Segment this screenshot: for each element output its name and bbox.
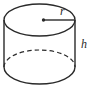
height-label: h <box>81 37 87 51</box>
cylinder-bottom-front-arc <box>4 67 75 84</box>
cylinder-figure: r h <box>0 0 91 91</box>
cylinder-bottom-back-arc <box>4 50 75 67</box>
radius-label: r <box>60 4 65 18</box>
cylinder-diagram: r h <box>0 0 91 91</box>
